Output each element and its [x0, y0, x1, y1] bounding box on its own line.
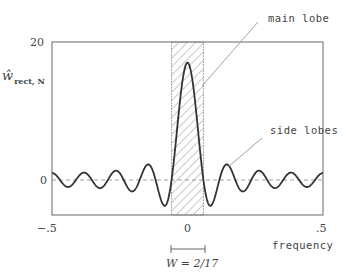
width-marker — [171, 245, 205, 253]
plot-area — [0, 0, 343, 280]
main-lobe-leader — [202, 22, 258, 86]
y-tick-20: 20 — [30, 36, 44, 49]
chart-figure: ŵrect, N 20 0 −.5 0 .5 frequency main lo… — [0, 0, 343, 280]
side-lobes-annotation: side lobes — [270, 124, 338, 136]
x-tick-half: .5 — [316, 222, 327, 235]
width-annotation: W = 2/17 — [166, 257, 218, 270]
y-axis-label: ŵrect, N — [2, 68, 45, 83]
main-lobe-annotation: main lobe — [268, 12, 329, 24]
side-lobes-leader — [228, 138, 262, 167]
x-tick-minus-half: −.5 — [37, 222, 57, 235]
x-tick-zero: 0 — [184, 222, 191, 235]
x-axis-label: frequency — [272, 239, 333, 251]
y-tick-0: 0 — [40, 174, 47, 187]
